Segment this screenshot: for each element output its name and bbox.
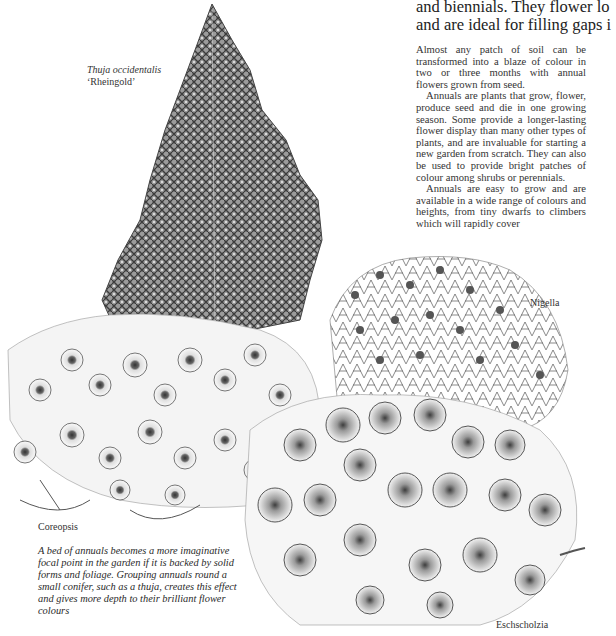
heading-line: and biennials. They flower lo	[416, 0, 616, 16]
thuja-conifer-icon	[102, 4, 322, 340]
eschscholzia-label: Eschscholzia	[496, 619, 548, 630]
section-heading: and biennials. They flower lo and are id…	[416, 0, 616, 34]
body-text-column: Almost any patch of soil can be transfor…	[416, 44, 586, 230]
thuja-label: Thuja occidentalis ‘Rheingold’	[87, 64, 161, 88]
body-paragraph: Annuals are plants that grow, flower, pr…	[416, 90, 586, 183]
body-paragraph: Annuals are easy to grow and are availab…	[416, 183, 586, 229]
illustration-caption: A bed of annuals becomes a more imaginat…	[38, 545, 248, 617]
coreopsis-plants-icon	[8, 314, 320, 519]
eschscholzia-plants-icon	[245, 394, 585, 625]
thuja-latin-name: Thuja occidentalis	[87, 64, 161, 76]
nigella-plants-icon	[330, 257, 568, 431]
coreopsis-label: Coreopsis	[38, 521, 78, 532]
thuja-cultivar-name: ‘Rheingold’	[87, 76, 161, 88]
nigella-label: Nigella	[530, 297, 559, 308]
body-paragraph: Almost any patch of soil can be transfor…	[416, 44, 586, 90]
heading-line: and are ideal for filling gaps i	[416, 16, 616, 34]
